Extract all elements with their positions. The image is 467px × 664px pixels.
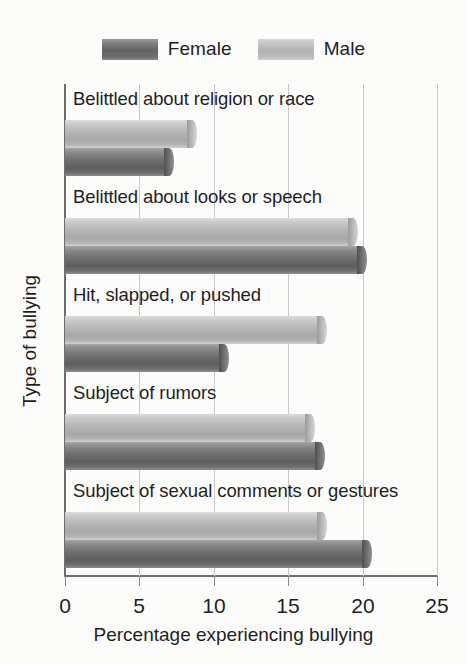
category-label-1: Belittled about looks or speech [73,186,322,208]
category-label-3: Subject of rumors [73,382,216,404]
bar-female-3[interactable] [65,442,325,470]
x-axis-line [64,575,438,577]
legend-entry-male: Male [258,38,366,60]
bar-group-4: Subject of sexual comments or gestures [65,480,437,574]
bar-female-2-cap [219,344,229,372]
bar-male-0-cap [187,120,197,148]
bar-chart: Female Male 0 5 10 15 20 25 Belittled ab… [0,0,467,664]
category-label-0: Belittled about religion or race [73,88,315,110]
x-tick-15 [288,576,289,586]
bar-male-2-body [65,316,318,344]
bar-female-2[interactable] [65,344,229,372]
x-tick-20 [363,576,364,586]
bar-male-4-cap [317,512,327,540]
x-axis-title: Percentage experiencing bullying [0,624,467,646]
bar-male-2[interactable] [65,316,327,344]
bar-male-4[interactable] [65,512,327,540]
bar-male-1-cap [348,218,358,246]
bar-female-0[interactable] [65,148,174,176]
bar-group-3: Subject of rumors [65,382,437,476]
x-tick-label-10: 10 [202,594,225,618]
bar-male-3-body [65,414,306,442]
legend-entry-female: Female [102,38,232,60]
legend-swatch-female-icon [102,39,158,60]
x-tick-5 [139,576,140,586]
bar-male-3[interactable] [65,414,315,442]
bar-male-4-body [65,512,318,540]
bar-group-0: Belittled about religion or race [65,88,437,182]
bar-female-4[interactable] [65,540,372,568]
x-tick-label-5: 5 [133,594,145,618]
gridline-25 [437,84,438,576]
bar-female-1[interactable] [65,246,367,274]
bar-male-2-cap [317,316,327,344]
bar-female-0-body [65,148,165,176]
x-tick-label-20: 20 [351,594,374,618]
bar-female-1-cap [357,246,367,274]
bar-female-1-body [65,246,358,274]
x-tick-label-0: 0 [59,594,71,618]
y-axis-title: Type of bullying [19,106,41,576]
plot-area: 0 5 10 15 20 25 Belittled about religion… [65,84,437,576]
x-tick-label-25: 25 [425,594,448,618]
x-tick-25 [437,576,438,586]
bar-female-4-body [65,540,363,568]
bar-male-1-body [65,218,349,246]
legend-swatch-male-icon [258,39,314,60]
legend-label-male: Male [324,38,366,60]
bar-male-0-body [65,120,188,148]
bar-female-3-cap [315,442,325,470]
legend-label-female: Female [168,38,232,60]
bar-group-2: Hit, slapped, or pushed [65,284,437,378]
bar-male-1[interactable] [65,218,358,246]
chart-legend: Female Male [0,38,467,60]
bar-female-2-body [65,344,220,372]
x-tick-label-15: 15 [276,594,299,618]
bar-male-3-cap [305,414,315,442]
bar-group-1: Belittled about looks or speech [65,186,437,280]
bar-female-3-body [65,442,316,470]
x-tick-10 [214,576,215,586]
bar-female-0-cap [164,148,174,176]
category-label-4: Subject of sexual comments or gestures [73,480,398,502]
bar-male-0[interactable] [65,120,197,148]
category-label-2: Hit, slapped, or pushed [73,284,261,306]
x-tick-0 [65,576,66,586]
bar-female-4-cap [362,540,372,568]
